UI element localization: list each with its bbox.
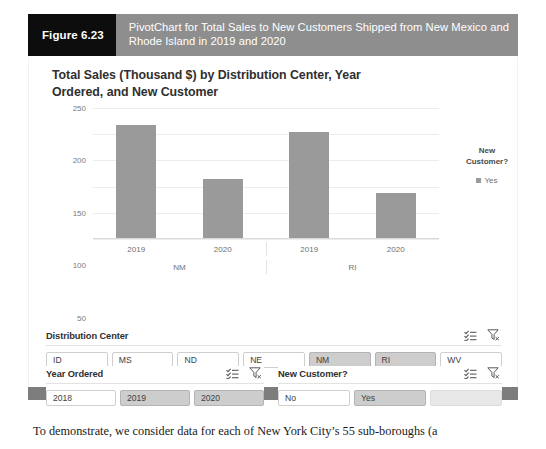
legend-title: New Customer? xyxy=(459,145,515,167)
slicer-item[interactable]: 2018 xyxy=(46,390,116,406)
category-divider xyxy=(266,260,267,274)
slicer-panel: Distribution CenterIDMSNDNENMRIWV Year O… xyxy=(29,322,519,387)
slicer-icon-group xyxy=(226,365,264,383)
slicer-header: Distribution Center xyxy=(46,328,502,346)
slicer-item[interactable]: No xyxy=(278,390,350,406)
chart-legend: New Customer? Yes xyxy=(459,145,515,185)
y-axis-tick-label: 250 xyxy=(73,104,86,113)
y-axis-tick-label: 100 xyxy=(73,261,86,270)
clear-filter-icon[interactable] xyxy=(249,365,262,383)
chart-plot-area: 050100150200250 xyxy=(93,108,439,239)
chart-category-axis: 2019202020192020 NMRI xyxy=(93,240,439,276)
chart-title: Total Sales (Thousand $) by Distribution… xyxy=(52,67,382,100)
slicer-item[interactable]: 2019 xyxy=(120,390,190,406)
pivotchart-dashboard: Total Sales (Thousand $) by Distribution… xyxy=(28,57,518,387)
pivot-chart: Total Sales (Thousand $) by Distribution… xyxy=(29,57,519,322)
multi-select-icon xyxy=(464,368,477,379)
slicer-icon-group xyxy=(464,365,502,383)
slicer-item[interactable]: 2020 xyxy=(194,390,264,406)
legend-item-label: Yes xyxy=(484,176,497,185)
slicer-title: Year Ordered xyxy=(46,369,226,379)
multi-select-icon xyxy=(464,330,477,341)
category-label-group: RI xyxy=(266,258,439,276)
category-axis-groups: NMRI xyxy=(93,258,439,276)
slicer-item-list: NoYes xyxy=(278,390,502,406)
category-label-group: NM xyxy=(93,258,266,276)
slicer-item[interactable]: Yes xyxy=(354,390,426,406)
y-axis-tick-label: 200 xyxy=(73,156,86,165)
slicer-new-customer: New Customer?NoYes xyxy=(278,366,502,406)
multi-select-icon[interactable] xyxy=(464,365,477,383)
chart-bar[interactable] xyxy=(116,125,156,238)
clear-filter-icon[interactable] xyxy=(487,327,500,345)
y-gridline: 250 xyxy=(93,108,439,109)
clear-filter-icon[interactable] xyxy=(487,365,500,383)
chart-bar[interactable] xyxy=(376,193,416,238)
chart-bar[interactable] xyxy=(203,179,243,238)
slicer-title: Distribution Center xyxy=(46,331,464,341)
clear-filter-icon xyxy=(487,329,500,341)
slicer-item-list: 201820192020 xyxy=(46,390,264,406)
figure-caption-text: PivotChart for Total Sales to New Custom… xyxy=(116,14,518,56)
figure-number-label: Figure 6.23 xyxy=(28,14,116,56)
figure-block: Figure 6.23 PivotChart for Total Sales t… xyxy=(28,14,518,400)
slicer-item-empty xyxy=(430,390,502,406)
category-label-year: 2020 xyxy=(353,240,440,258)
slicer-header: Year Ordered xyxy=(46,366,264,384)
slicer-title: New Customer? xyxy=(278,369,464,379)
chart-bar[interactable] xyxy=(289,132,329,238)
category-label-text: RI xyxy=(349,263,357,272)
clear-filter-icon xyxy=(249,367,262,379)
category-label-year: 2019 xyxy=(266,240,353,258)
y-axis-tick-label: 50 xyxy=(77,313,86,322)
category-axis-years: 2019202020192020 xyxy=(93,240,439,258)
multi-select-icon xyxy=(226,368,239,379)
slicer-header: New Customer? xyxy=(278,366,502,384)
multi-select-icon[interactable] xyxy=(464,327,477,345)
body-paragraph: To demonstrate, we consider data for eac… xyxy=(33,424,513,439)
slicer-year-ordered: Year Ordered201820192020 xyxy=(46,366,264,406)
figure-caption-bar: Figure 6.23 PivotChart for Total Sales t… xyxy=(28,14,518,56)
y-axis-tick-label: 150 xyxy=(73,208,86,217)
category-label-text: 2019 xyxy=(127,245,145,254)
legend-item-yes: Yes xyxy=(459,176,515,185)
category-label-text: 2019 xyxy=(300,245,318,254)
category-label-year: 2020 xyxy=(180,240,267,258)
multi-select-icon[interactable] xyxy=(226,365,239,383)
category-label-text: NM xyxy=(173,263,185,272)
category-label-text: 2020 xyxy=(387,245,405,254)
category-divider xyxy=(266,242,267,256)
slicer-distribution-center: Distribution CenterIDMSNDNENMRIWV xyxy=(46,328,502,368)
legend-swatch-icon xyxy=(476,178,481,183)
slicer-icon-group xyxy=(464,327,502,345)
category-label-year: 2019 xyxy=(93,240,180,258)
category-label-text: 2020 xyxy=(214,245,232,254)
clear-filter-icon xyxy=(487,367,500,379)
